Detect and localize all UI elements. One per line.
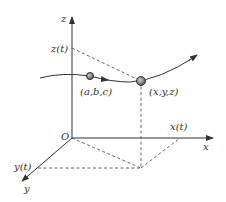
curve-arrow-end: [188, 55, 197, 61]
x-t-label: x(t): [170, 121, 188, 132]
point-abc-label: (a,b,c): [80, 86, 112, 97]
projection-lines: [38, 48, 180, 168]
point-xyz-label: (x,y,z): [149, 86, 178, 97]
z-axis-label: z: [60, 13, 67, 24]
point-xyz: [137, 77, 146, 86]
z-t-label: z(t): [50, 43, 68, 54]
parametric-curve: [40, 56, 196, 82]
parametric-curve-diagram: z x y O z(t) x(t) y(t) (a,b,c) (x,y,z): [0, 0, 226, 202]
point-abc: [87, 73, 94, 80]
y-axis-label: y: [23, 183, 30, 194]
y-axis: [22, 138, 72, 181]
y-t-label: y(t): [13, 161, 32, 172]
curve-arrow-mid: [101, 79, 108, 80]
x-axis-label: x: [203, 141, 209, 152]
origin-label: O: [61, 131, 69, 142]
